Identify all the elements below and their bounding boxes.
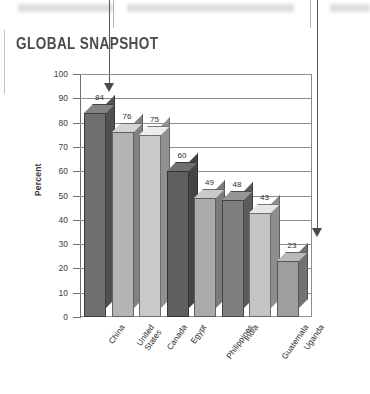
bar-value-label: 84 <box>89 93 111 102</box>
y-tick <box>73 220 80 221</box>
y-tick-label: 100 <box>42 70 68 78</box>
y-tick <box>73 98 80 99</box>
bar-value-label: 23 <box>281 241 303 250</box>
bar <box>222 191 244 317</box>
x-axis-label: Canada <box>165 323 189 352</box>
bar-front-face <box>167 171 189 317</box>
bar-value-label: 43 <box>254 193 276 202</box>
bar-front-face <box>112 132 134 317</box>
bar-value-label: 75 <box>144 115 166 124</box>
bar <box>194 189 216 317</box>
bar-front-face <box>277 261 299 317</box>
bar <box>167 162 189 317</box>
bar-value-label: 48 <box>226 180 248 189</box>
x-axis-label: UnitedStates <box>135 323 163 353</box>
y-tick <box>73 244 80 245</box>
y-tick <box>73 196 80 197</box>
y-tick-label: 50 <box>42 192 68 200</box>
y-tick <box>73 268 80 269</box>
y-tick-label: 20 <box>42 264 68 272</box>
y-tick-label: 40 <box>42 216 68 224</box>
y-tick-label: 90 <box>42 94 68 102</box>
bar <box>249 204 271 317</box>
y-tick <box>73 293 80 294</box>
bar-value-label: 60 <box>171 151 193 160</box>
bar-front-face <box>194 198 216 317</box>
y-tick <box>73 317 80 318</box>
x-axis-label: China <box>107 323 127 346</box>
bar-value-label: 76 <box>116 112 138 121</box>
bar <box>84 104 106 317</box>
bar-front-face <box>139 135 161 317</box>
bar-front-face <box>84 113 106 317</box>
y-tick <box>73 147 80 148</box>
x-axis-label: Egypt <box>189 323 208 345</box>
y-tick <box>73 74 80 75</box>
y-tick-label: 70 <box>42 143 68 151</box>
bar <box>112 123 134 317</box>
bar-value-label: 49 <box>199 178 221 187</box>
bar <box>139 126 161 317</box>
y-tick-label: 0 <box>42 313 68 321</box>
bar-front-face <box>249 213 271 317</box>
y-tick-label: 80 <box>42 119 68 127</box>
y-tick-label: 60 <box>42 167 68 175</box>
y-tick <box>73 123 80 124</box>
gridline <box>80 74 312 75</box>
bar <box>277 252 299 317</box>
y-axis-label: Percent <box>33 163 43 196</box>
bar-front-face <box>222 200 244 317</box>
y-tick <box>73 171 80 172</box>
y-tick-label: 10 <box>42 289 68 297</box>
y-tick-label: 30 <box>42 240 68 248</box>
